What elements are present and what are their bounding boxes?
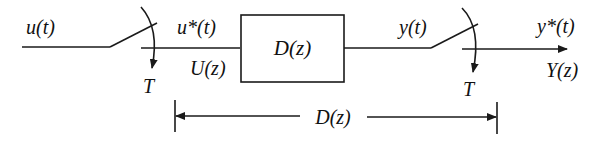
dimension-label: D(z) <box>314 106 351 129</box>
sampler-1-period-label: T <box>143 75 156 97</box>
sampled-output-label: y*(t) <box>535 15 575 38</box>
block-label: D(z) <box>273 36 311 60</box>
sampler-1-switch <box>110 23 240 48</box>
input-z-transform-label: U(z) <box>190 57 226 80</box>
input-label: u(t) <box>26 16 55 39</box>
block-diagram: u(t) T u*(t) U(z) D(z) y(t) T y*(t) Y(z)… <box>0 0 601 144</box>
sampler-2-rotation-arrow-icon <box>462 8 476 72</box>
sampled-input-label: u*(t) <box>177 16 216 39</box>
sampler-1-rotation-arrow-icon <box>141 7 154 68</box>
block-output-label: y(t) <box>397 16 427 39</box>
output-z-transform-label: Y(z) <box>546 59 579 82</box>
sampler-2-period-label: T <box>463 78 476 100</box>
